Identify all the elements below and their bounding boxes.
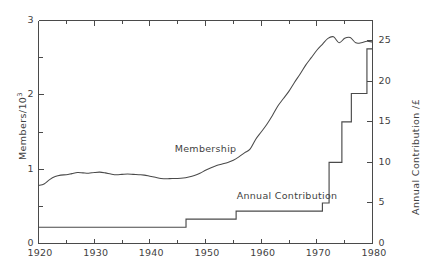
membership-series-label: Membership — [175, 143, 237, 154]
left-axis-title-exponent: 3 — [16, 92, 24, 97]
x-tick-label: 1920 — [28, 247, 53, 258]
right-tick-label: 0 — [379, 237, 385, 248]
left-tick-label: 2 — [28, 88, 34, 99]
left-axis-title-text: Members/10 — [17, 97, 28, 160]
left-tick-label: 1 — [28, 163, 34, 174]
x-tick-label: 1970 — [306, 247, 331, 258]
left-tick-label: 0 — [28, 237, 34, 248]
left-axis-title: Members/103 — [16, 92, 28, 160]
x-tick-label: 1980 — [362, 247, 387, 258]
right-tick-label: 20 — [379, 75, 392, 86]
membership-line — [39, 37, 373, 186]
left-tick-label: 3 — [28, 14, 34, 25]
x-tick-label: 1950 — [195, 247, 220, 258]
annual-contribution-series-label: Annual Contribution — [237, 190, 338, 201]
x-tick-label: 1960 — [250, 247, 275, 258]
x-tick-label: 1940 — [139, 247, 164, 258]
x-tick-label: 1930 — [83, 247, 108, 258]
right-tick-label: 5 — [379, 196, 385, 207]
right-axis-title: Annual Contribution /£ — [410, 99, 421, 215]
right-tick-label: 10 — [379, 156, 392, 167]
right-tick-label: 15 — [379, 115, 392, 126]
right-tick-label: 25 — [379, 34, 392, 45]
